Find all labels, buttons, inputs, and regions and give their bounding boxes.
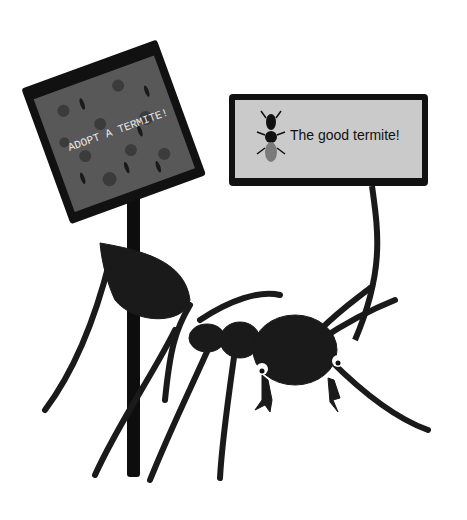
adopt-sign: ADOPT A TERMITE!	[21, 40, 206, 225]
ant-abdomen	[100, 243, 190, 319]
ant	[45, 243, 428, 480]
sign-pole	[127, 190, 140, 477]
illustration: ADOPT A TERMITE! The good termite!	[0, 0, 467, 520]
ant-mandible-right	[328, 378, 340, 412]
ant-mandible-left	[255, 375, 272, 412]
good-sign-text: The good termite!	[290, 127, 400, 143]
